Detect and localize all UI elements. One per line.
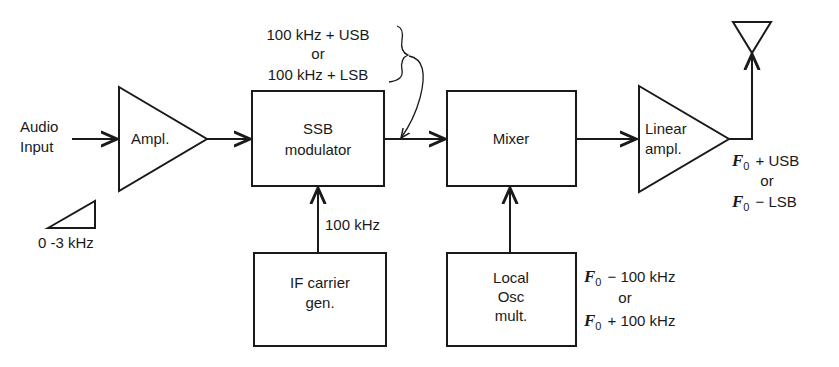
linear-ampl-label-line2: ampl.: [645, 140, 682, 157]
lo-freq-line2: or: [618, 289, 631, 306]
output-freq-line1-sub: 0: [743, 160, 749, 172]
output-freq-line2: or: [760, 172, 773, 189]
linear-ampl-label-line1: Linear: [645, 120, 687, 137]
local-osc-label-line2: Osc: [498, 288, 525, 305]
modulator-output-label-line1: 100 kHz + USB: [267, 26, 370, 43]
modulator-output-brace: [389, 26, 408, 82]
svg-text:F0+ USB: F0+ USB: [731, 151, 799, 172]
lo-freq-line1-rest: − 100 kHz: [607, 268, 675, 285]
modulator-output-pointer: [401, 56, 423, 138]
if-carrier-label-line1: IF carrier: [290, 274, 350, 291]
if-carrier-label-line2: gen.: [305, 294, 334, 311]
output-line: [729, 56, 752, 139]
output-freq-line3-var: F: [731, 192, 744, 211]
audio-input-label-line1: Audio: [20, 118, 58, 135]
lo-freq-line3-var: F: [583, 311, 596, 330]
svg-text:F0− 100 kHz: F0− 100 kHz: [583, 267, 675, 288]
ssb-modulator-label-line2: modulator: [285, 141, 352, 158]
svg-text:F0− LSB: F0− LSB: [731, 192, 797, 213]
modulator-output-label-line3: 100 kHz + LSB: [268, 66, 368, 83]
ssb-modulator-label-line1: SSB: [303, 120, 333, 137]
lo-freq-line3-sub: 0: [595, 320, 601, 332]
local-osc-label-line1: Local: [493, 269, 529, 286]
output-freq-line3-sub: 0: [743, 201, 749, 213]
lo-freq-line1-sub: 0: [595, 276, 601, 288]
output-freq-line1-rest: + USB: [755, 152, 799, 169]
mixer-label: Mixer: [493, 130, 530, 147]
audio-spectrum-icon: [48, 201, 95, 228]
audio-spectrum-label: 0 -3 kHz: [38, 234, 94, 251]
modulator-output-label-line2: or: [311, 45, 324, 62]
lo-freq-label: F0− 100 kHz or F0+ 100 kHz: [583, 267, 675, 332]
output-freq-line3-rest: − LSB: [755, 193, 796, 210]
audio-input-label-line2: Input: [20, 138, 54, 155]
ssb-transmitter-diagram: Audio Input 0 -3 kHz Ampl. SSB modulator…: [0, 0, 839, 367]
ampl-label: Ampl.: [131, 130, 169, 147]
antenna-icon: [733, 22, 771, 53]
linear-ampl-block: [639, 86, 729, 192]
svg-text:F0+ 100 kHz: F0+ 100 kHz: [583, 311, 675, 332]
if-carrier-freq-label: 100 kHz: [325, 216, 380, 233]
output-freq-label: F0+ USB or F0− LSB: [731, 151, 799, 213]
output-freq-line1-var: F: [731, 151, 744, 170]
lo-freq-line1-var: F: [583, 267, 596, 286]
local-osc-label-line3: mult.: [495, 307, 528, 324]
ssb-modulator-block: [252, 91, 384, 186]
lo-freq-line3-rest: + 100 kHz: [607, 312, 675, 329]
